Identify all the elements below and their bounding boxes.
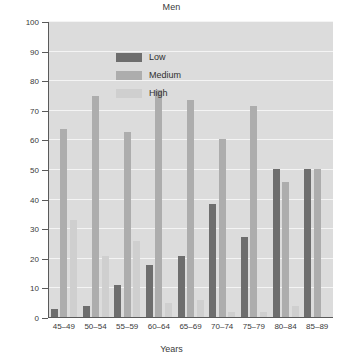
x-axis-label: Years bbox=[0, 344, 343, 354]
legend-label: Low bbox=[149, 52, 166, 62]
chart-figure: Men Percentage LowMediumHigh 01020304050… bbox=[0, 0, 343, 362]
y-tick-label: 90 bbox=[15, 47, 39, 56]
x-tick-label: 55–59 bbox=[116, 322, 138, 331]
y-tick-mark bbox=[42, 229, 48, 230]
plot-area: LowMediumHigh bbox=[48, 22, 333, 318]
y-tick-mark bbox=[42, 318, 48, 319]
y-tick-mark bbox=[42, 81, 48, 82]
legend-item: Low bbox=[116, 48, 226, 66]
bar bbox=[273, 169, 280, 318]
y-tick-label: 0 bbox=[15, 314, 39, 323]
y-tick-mark bbox=[42, 52, 48, 53]
bar bbox=[60, 129, 67, 318]
bar bbox=[292, 306, 299, 318]
legend-label: Medium bbox=[149, 70, 181, 80]
x-tick-label: 65–69 bbox=[179, 322, 201, 331]
y-tick-label: 80 bbox=[15, 77, 39, 86]
bar bbox=[187, 100, 194, 318]
bar bbox=[219, 139, 226, 318]
bar bbox=[178, 256, 185, 318]
gridline bbox=[48, 21, 333, 22]
bar bbox=[83, 306, 90, 318]
legend-item: Medium bbox=[116, 66, 226, 84]
x-tick-label: 80–84 bbox=[274, 322, 296, 331]
y-tick-mark bbox=[42, 140, 48, 141]
x-tick-label: 50–54 bbox=[84, 322, 106, 331]
legend-label: High bbox=[149, 88, 168, 98]
bar bbox=[92, 96, 99, 318]
bar bbox=[260, 312, 267, 318]
bar bbox=[114, 285, 121, 318]
bar bbox=[250, 106, 257, 318]
y-tick-label: 40 bbox=[15, 195, 39, 204]
y-tick-mark bbox=[42, 288, 48, 289]
x-tick-label: 85–89 bbox=[306, 322, 328, 331]
y-tick-label: 20 bbox=[15, 254, 39, 263]
chart-title: Men bbox=[0, 2, 343, 12]
bar bbox=[51, 309, 58, 318]
y-tick-mark bbox=[42, 200, 48, 201]
x-tick-label: 60–64 bbox=[148, 322, 170, 331]
x-tick-label: 45–49 bbox=[53, 322, 75, 331]
y-tick-label: 100 bbox=[15, 18, 39, 27]
legend-item: High bbox=[116, 84, 226, 102]
bar bbox=[197, 300, 204, 318]
bar bbox=[155, 90, 162, 318]
bar bbox=[228, 312, 235, 318]
y-tick-mark bbox=[42, 111, 48, 112]
bar bbox=[70, 220, 77, 318]
legend-swatch bbox=[116, 89, 142, 98]
bar bbox=[282, 182, 289, 318]
x-tick-label: 75–79 bbox=[243, 322, 265, 331]
bar bbox=[102, 256, 109, 318]
bar bbox=[314, 169, 321, 318]
bar bbox=[241, 237, 248, 318]
bar bbox=[133, 241, 140, 318]
chart-legend: LowMediumHigh bbox=[116, 48, 226, 102]
x-tick-label: 70–74 bbox=[211, 322, 233, 331]
bar bbox=[124, 132, 131, 318]
legend-swatch bbox=[116, 71, 142, 80]
legend-swatch bbox=[116, 53, 142, 62]
y-tick-label: 60 bbox=[15, 136, 39, 145]
bar bbox=[209, 204, 216, 318]
y-tick-label: 10 bbox=[15, 284, 39, 293]
y-tick-mark bbox=[42, 22, 48, 23]
y-tick-mark bbox=[42, 170, 48, 171]
y-tick-label: 50 bbox=[15, 166, 39, 175]
y-tick-mark bbox=[42, 259, 48, 260]
y-tick-label: 30 bbox=[15, 225, 39, 234]
bar bbox=[146, 265, 153, 318]
bar bbox=[165, 303, 172, 318]
y-tick-label: 70 bbox=[15, 106, 39, 115]
bar bbox=[304, 169, 311, 318]
